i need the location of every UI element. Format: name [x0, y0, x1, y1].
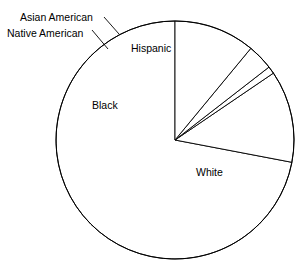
slice-label-hispanic: Hispanic — [131, 42, 171, 54]
asian-american-leader-line — [104, 17, 119, 34]
slice-label-white: White — [196, 166, 223, 178]
slice-label-asian-american: Asian American — [20, 11, 93, 24]
pie-slices-group — [56, 21, 294, 259]
native-american-leader-line — [92, 30, 108, 49]
pie-chart: White Black Hispanic Asian American Nati… — [0, 0, 296, 266]
slice-label-native-american: Native American — [7, 27, 83, 40]
slice-label-black: Black — [92, 99, 118, 111]
